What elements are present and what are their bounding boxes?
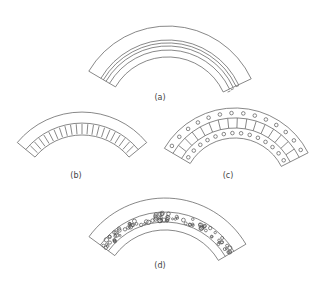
arch-a: (a)	[89, 26, 251, 102]
label-a: (a)	[154, 93, 165, 102]
arch-figure: (a)(b)(c)(d)	[0, 0, 323, 281]
label-b: (b)	[70, 171, 81, 180]
label-c: (c)	[223, 171, 234, 180]
arch-d: (d)	[89, 198, 246, 270]
arch-b: (b)	[17, 112, 146, 180]
arch-c: (c)	[164, 108, 308, 180]
label-d: (d)	[154, 261, 165, 270]
